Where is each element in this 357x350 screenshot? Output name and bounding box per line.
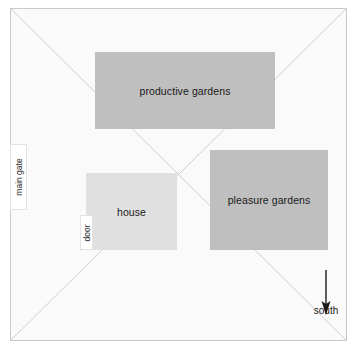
plot-label-pleasure-gardens: pleasure gardens: [228, 194, 311, 206]
plot-pleasure-gardens[interactable]: pleasure gardens: [210, 150, 328, 250]
marker-label-door: door: [82, 224, 92, 241]
plot-house[interactable]: house: [86, 173, 177, 250]
estate-plan-diagram: productive gardens pleasure gardens hous…: [0, 0, 357, 350]
marker-label-main-gate: main gate: [14, 158, 24, 195]
marker-door[interactable]: door: [80, 215, 93, 250]
plot-label-productive-gardens: productive gardens: [139, 85, 230, 97]
compass-direction-label: south: [300, 305, 352, 316]
plot-productive-gardens[interactable]: productive gardens: [95, 52, 275, 129]
plot-label-house: house: [117, 206, 146, 218]
marker-main-gate[interactable]: main gate: [10, 144, 27, 210]
